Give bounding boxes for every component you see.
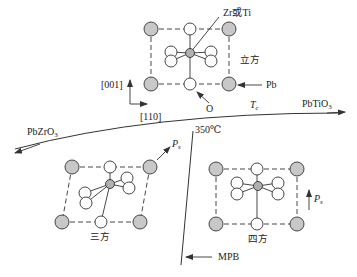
- rhombohedral-unit-cell: [55, 160, 157, 229]
- cubic-unit-cell: [144, 17, 236, 91]
- mpb-curve: [181, 131, 193, 265]
- ps-rhombohedral-arrow: [157, 147, 170, 160]
- temperature-label: 350℃: [195, 125, 221, 135]
- tetragonal-unit-cell: [209, 162, 304, 231]
- pbzro3-label: PbZrO3: [27, 127, 58, 137]
- pbtio3-label: PbTiO3: [302, 99, 332, 109]
- ps-rhombohedral-label: Ps: [172, 139, 181, 149]
- rhombohedral-phase-label: 三方: [90, 232, 110, 242]
- pbtio3-arrow: [327, 112, 345, 113]
- oxygen-label: O: [206, 104, 213, 114]
- pb-label: Pb: [266, 80, 277, 90]
- axis-001-label: [001]: [101, 80, 123, 90]
- axis-110-label: [110]: [140, 112, 161, 122]
- tetragonal-phase-label: 四方: [248, 234, 268, 244]
- cubic-phase-label: 立方: [240, 55, 260, 65]
- ps-tetragonal-label: Ps: [314, 194, 323, 204]
- b-site-label: Zr或Ti: [223, 8, 251, 18]
- b-site-atom: [186, 49, 195, 58]
- oxygen-pointer-arrow: [197, 92, 209, 103]
- mpb-label: MPB: [218, 252, 239, 262]
- tc-label: Tc: [250, 100, 259, 110]
